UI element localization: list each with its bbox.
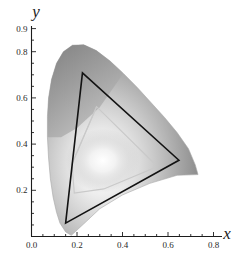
y-axis-label: y (30, 2, 40, 21)
y-tick-label: 0.9 (16, 24, 28, 34)
y-tick-label: 0.2 (16, 185, 27, 195)
x-tick-label: 0.8 (208, 240, 220, 250)
x-axis-tick-labels: 0.00.20.40.60.8 (26, 240, 220, 250)
x-tick-label: 0.4 (117, 240, 129, 250)
figure-canvas: 0.00.20.40.60.8 0.20.40.60.80.9 x y (0, 0, 245, 264)
y-tick-label: 0.8 (16, 47, 28, 57)
y-tick-label: 0.6 (16, 93, 28, 103)
x-axis-ticks (32, 232, 214, 237)
y-axis-ticks (32, 29, 37, 237)
x-axis-label: x (222, 224, 231, 243)
cie-chromaticity-plot: 0.00.20.40.60.8 0.20.40.60.80.9 x y (0, 0, 245, 264)
x-tick-label: 0.0 (26, 240, 38, 250)
x-tick-label: 0.2 (71, 240, 82, 250)
y-axis-tick-labels: 0.20.40.60.80.9 (16, 24, 28, 196)
x-tick-label: 0.6 (162, 240, 174, 250)
y-tick-label: 0.4 (16, 139, 28, 149)
